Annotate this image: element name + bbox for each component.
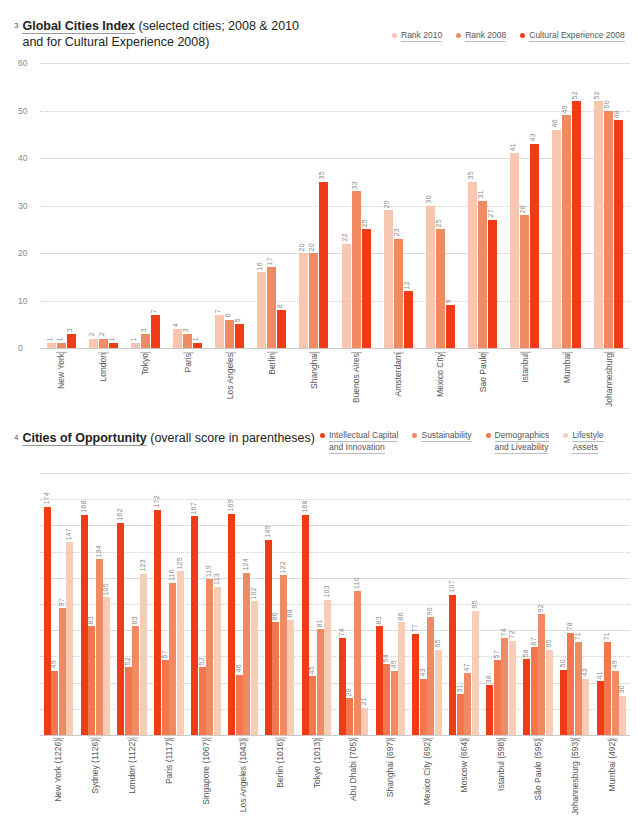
bar[interactable] xyxy=(280,575,287,735)
bar[interactable] xyxy=(572,101,581,348)
bar[interactable] xyxy=(199,667,206,735)
legend-item-demographics[interactable]: Demographics and Liveability xyxy=(486,430,550,454)
bar[interactable] xyxy=(346,698,353,735)
legend-item-rank-2008[interactable]: Rank 2008 xyxy=(456,30,506,42)
bar[interactable] xyxy=(523,659,530,735)
bar[interactable] xyxy=(567,633,574,735)
bar[interactable] xyxy=(446,305,455,348)
bar[interactable] xyxy=(575,642,582,735)
bar[interactable] xyxy=(140,574,147,735)
legend-item-cultural-experience-2008[interactable]: Cultural Experience 2008 xyxy=(520,30,624,42)
bar[interactable] xyxy=(225,320,234,349)
bar[interactable] xyxy=(362,229,371,348)
bar[interactable] xyxy=(236,675,243,735)
bar[interactable] xyxy=(391,671,398,735)
bar[interactable] xyxy=(228,514,235,735)
bar[interactable] xyxy=(420,679,427,735)
bar[interactable] xyxy=(472,611,479,735)
bar[interactable] xyxy=(520,215,529,348)
legend-item-sustainability[interactable]: Sustainability xyxy=(412,430,471,442)
bar[interactable] xyxy=(299,253,308,348)
bar[interactable] xyxy=(426,206,435,349)
bar[interactable] xyxy=(319,182,328,348)
bar[interactable] xyxy=(103,597,110,735)
bar[interactable] xyxy=(151,315,160,348)
bar[interactable] xyxy=(309,676,316,735)
bar[interactable] xyxy=(169,583,176,735)
bar[interactable] xyxy=(354,591,361,735)
bar[interactable] xyxy=(214,587,221,735)
bar[interactable] xyxy=(376,626,383,735)
bar[interactable] xyxy=(594,101,603,348)
bar[interactable] xyxy=(509,641,516,735)
bar[interactable] xyxy=(488,220,497,348)
bar[interactable] xyxy=(277,310,286,348)
bar[interactable] xyxy=(486,685,493,735)
bar[interactable] xyxy=(436,229,445,348)
bar[interactable] xyxy=(464,673,471,735)
bar[interactable] xyxy=(317,629,324,735)
legend-item-intellectual-capital[interactable]: Intellectual Capital and Innovation xyxy=(320,430,398,454)
bar[interactable] xyxy=(177,571,184,735)
bar[interactable] xyxy=(383,664,390,735)
bar[interactable] xyxy=(81,515,88,735)
bar[interactable] xyxy=(251,601,258,735)
bar[interactable] xyxy=(183,334,192,348)
bar[interactable] xyxy=(302,515,309,735)
bar[interactable] xyxy=(597,681,604,735)
bar[interactable] xyxy=(352,191,361,348)
bar[interactable] xyxy=(478,201,487,348)
bar[interactable] xyxy=(612,671,619,735)
bar[interactable] xyxy=(51,671,58,735)
bar[interactable] xyxy=(384,210,393,348)
bar[interactable] xyxy=(604,111,613,349)
bar[interactable] xyxy=(287,620,294,735)
bar[interactable] xyxy=(117,523,124,735)
bar[interactable] xyxy=(67,334,76,348)
bar[interactable] xyxy=(141,334,150,348)
bar[interactable] xyxy=(427,617,434,735)
bar[interactable] xyxy=(88,626,95,735)
bar[interactable] xyxy=(99,339,108,349)
bar[interactable] xyxy=(546,650,553,735)
bar[interactable] xyxy=(206,579,213,735)
bar[interactable] xyxy=(361,708,368,736)
bar[interactable] xyxy=(267,267,276,348)
bar[interactable] xyxy=(89,339,98,349)
bar[interactable] xyxy=(449,595,456,735)
bar[interactable] xyxy=(412,634,419,735)
bar[interactable] xyxy=(257,272,266,348)
bar[interactable] xyxy=(619,696,626,735)
bar[interactable] xyxy=(272,622,279,735)
bar[interactable] xyxy=(324,600,331,735)
bar[interactable] xyxy=(125,667,132,735)
bar[interactable] xyxy=(309,253,318,348)
bar[interactable] xyxy=(339,638,346,735)
bar[interactable] xyxy=(404,291,413,348)
bar[interactable] xyxy=(235,324,244,348)
bar[interactable] xyxy=(59,608,66,735)
bar[interactable] xyxy=(604,642,611,735)
bar[interactable] xyxy=(342,244,351,349)
bar[interactable] xyxy=(191,516,198,735)
bar[interactable] xyxy=(265,540,272,735)
bar[interactable] xyxy=(531,647,538,735)
bar[interactable] xyxy=(162,660,169,735)
bar[interactable] xyxy=(468,182,477,348)
bar[interactable] xyxy=(510,153,519,348)
bar[interactable] xyxy=(501,638,508,735)
legend-item-rank-2010[interactable]: Rank 2010 xyxy=(392,30,442,42)
bar[interactable] xyxy=(132,626,139,735)
legend-item-lifestyle-assets[interactable]: Lifestyle Assets xyxy=(563,430,603,454)
bar[interactable] xyxy=(173,329,182,348)
bar[interactable] xyxy=(44,507,51,735)
bar[interactable] xyxy=(530,144,539,348)
bar[interactable] xyxy=(398,622,405,735)
bar[interactable] xyxy=(243,573,250,735)
bar[interactable] xyxy=(582,679,589,735)
bar[interactable] xyxy=(552,130,561,349)
bar[interactable] xyxy=(614,120,623,348)
bar[interactable] xyxy=(457,694,464,735)
bar[interactable] xyxy=(154,510,161,735)
bar[interactable] xyxy=(394,239,403,348)
